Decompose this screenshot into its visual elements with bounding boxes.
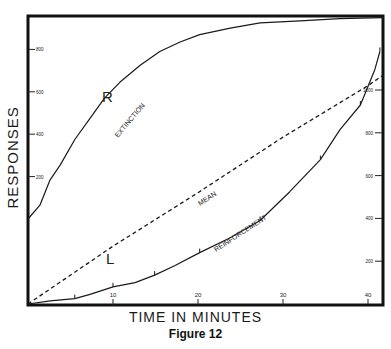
mean-curve (28, 75, 383, 304)
svg-text:400: 400 (365, 216, 373, 221)
svg-text:1000: 1000 (363, 88, 374, 93)
mean-label: MEAN (197, 190, 218, 207)
figure-caption: Figure 12 (0, 327, 391, 341)
svg-text:400: 400 (36, 132, 44, 137)
svg-text:10: 10 (110, 292, 117, 298)
curve-label-l: L (106, 250, 114, 267)
svg-text:200: 200 (365, 259, 373, 264)
left-axis-ticks: 200400600800 (29, 47, 44, 179)
svg-text:20: 20 (195, 292, 202, 298)
svg-text:200: 200 (36, 175, 44, 180)
curves (28, 18, 383, 304)
svg-text:30: 30 (280, 292, 287, 298)
svg-text:40: 40 (365, 292, 372, 298)
extinction-label: EXTINCTION (113, 102, 146, 139)
extinction-curve (28, 18, 383, 219)
curve-label-r: R (102, 88, 113, 105)
reinforcement-label: REINFORCEMENT (213, 213, 269, 253)
right-axis-ticks: 2004006008001000 (363, 88, 382, 264)
svg-text:600: 600 (36, 90, 44, 95)
y-axis-label: RESPONSES (4, 109, 21, 209)
x-axis-ticks: 10203040 (110, 292, 372, 305)
svg-text:800: 800 (365, 131, 373, 136)
x-axis-label: TIME IN MINUTES (0, 309, 391, 325)
cumulative-response-chart: 10203040 200400600800 2004006008001000 R… (0, 0, 391, 349)
svg-text:600: 600 (365, 174, 373, 179)
plot-frame (28, 16, 383, 305)
reinforcement-curve (28, 52, 380, 305)
svg-text:800: 800 (36, 47, 44, 52)
